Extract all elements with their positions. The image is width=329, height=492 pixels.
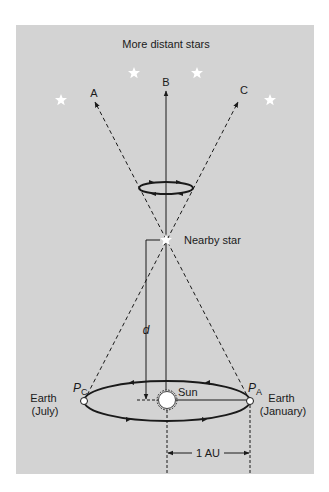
distant-star-icon: [191, 67, 203, 78]
label-PC: PC: [73, 381, 88, 397]
sun-icon: [157, 390, 177, 410]
label-PC-sub: C: [81, 387, 88, 397]
label-PC-main: P: [73, 381, 81, 395]
label-PA-main: P: [248, 381, 256, 395]
label-sun: Sun: [178, 386, 198, 398]
distant-star-icon: [128, 67, 140, 78]
orbit-arrow-icon: [126, 417, 131, 422]
distant-star-icon: [55, 94, 67, 105]
label-earth-january-line1: Earth: [268, 392, 294, 404]
label-distance-d: d: [143, 323, 150, 337]
label-PA-sub: A: [256, 387, 262, 397]
earth-july-marker: [81, 398, 88, 405]
label-earth-january: Earth (January): [260, 392, 306, 417]
sightline-to-C: [84, 102, 238, 401]
label-C: C: [240, 84, 248, 96]
label-1-au: 1 AU: [196, 447, 220, 459]
label-earth-july: Earth (July): [30, 392, 59, 417]
distant-star-icon: [264, 94, 276, 105]
label-nearby-star: Nearby star: [184, 234, 241, 246]
sightline-to-A: [95, 102, 250, 401]
label-earth-january-line2: (January): [260, 405, 306, 417]
label-A: A: [90, 87, 98, 99]
label-earth-july-line1: Earth: [30, 392, 56, 404]
label-earth-july-line2: (July): [32, 405, 59, 417]
label-PA: PA: [248, 381, 262, 397]
earth-january-marker: [247, 398, 254, 405]
label-B: B: [162, 76, 169, 88]
parallax-diagram: More distant stars A B C Nearby star d S…: [0, 0, 329, 492]
title-more-distant-stars: More distant stars: [122, 38, 210, 50]
orbit-arrow-icon: [129, 380, 134, 385]
